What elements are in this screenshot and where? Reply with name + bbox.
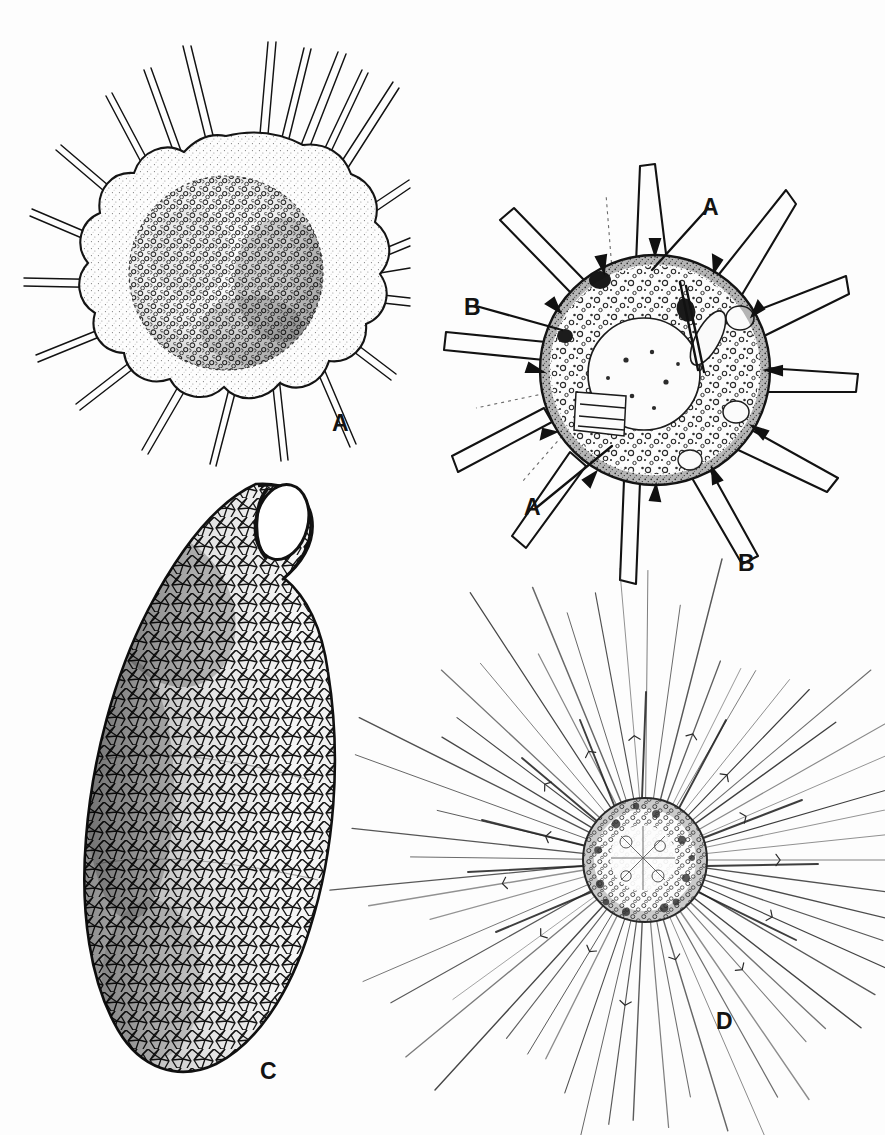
figure-b-label: B [738,552,755,575]
figure-d-drawing [410,650,850,1070]
figure-d [410,650,850,1070]
figure-b-callout-b-left: B [464,296,481,319]
figure-c [60,460,400,1100]
illustration-plate: A A B A B C D [0,0,885,1135]
figure-b [440,160,860,600]
figure-c-label: C [260,1060,277,1083]
figure-a-drawing [20,30,410,470]
figure-b-drawing [440,160,860,600]
figure-d-cell-body [583,798,707,922]
figure-b-callout-a-top: A [702,196,719,219]
figure-d-label: D [716,1010,733,1033]
figure-c-test-shell [60,460,400,1100]
figure-a-label: A [332,412,349,435]
figure-c-drawing [60,460,400,1100]
figure-b-callout-a-bottom: A [524,496,541,519]
figure-a [20,30,410,470]
